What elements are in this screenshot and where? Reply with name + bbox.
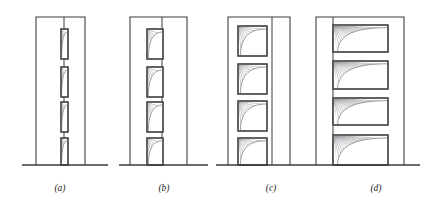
opening — [333, 25, 388, 52]
opening — [61, 102, 68, 132]
opening — [61, 67, 68, 97]
panel-a — [22, 17, 108, 165]
opening — [333, 98, 388, 125]
panels-group — [22, 17, 420, 165]
opening — [147, 102, 163, 132]
panel-label-d: (d) — [370, 183, 381, 194]
opening — [238, 138, 267, 165]
opening — [333, 135, 388, 165]
panel-label-c: (c) — [266, 183, 277, 194]
opening — [61, 29, 68, 59]
panel-c — [216, 17, 305, 165]
opening — [147, 67, 163, 97]
panel-labels-group: (a)(b)(c)(d) — [54, 183, 381, 194]
opening — [147, 29, 163, 59]
opening — [147, 138, 163, 165]
panel-label-b: (b) — [158, 183, 169, 194]
opening — [238, 101, 267, 131]
opening — [333, 61, 388, 89]
figure-container: (a)(b)(c)(d) — [0, 0, 440, 202]
opening — [238, 64, 267, 94]
frame-openings-diagram: (a)(b)(c)(d) — [0, 0, 440, 202]
opening — [61, 138, 68, 165]
opening — [238, 26, 267, 56]
panel-b — [119, 17, 208, 165]
panel-d — [305, 17, 420, 165]
panel-label-a: (a) — [54, 183, 65, 194]
